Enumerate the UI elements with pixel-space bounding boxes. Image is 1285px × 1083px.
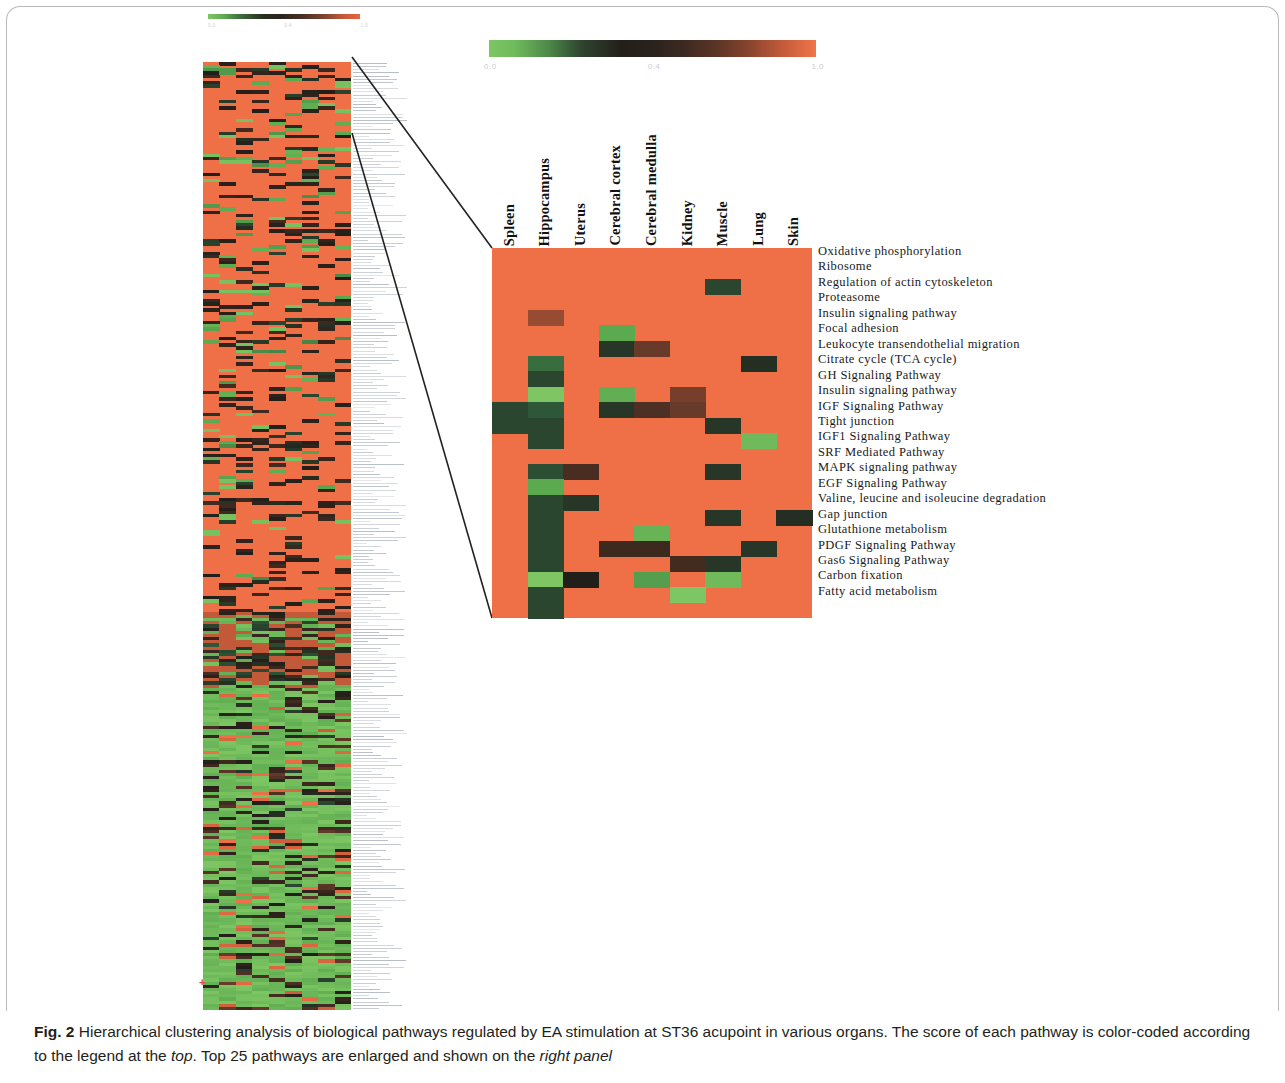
overview-heatmap-cell [285, 318, 302, 322]
overview-heatmap-cell [219, 305, 236, 309]
overview-heatmap-cell [318, 192, 335, 196]
overview-micro-label [353, 338, 381, 339]
overview-heatmap-cell [203, 75, 220, 79]
overview-micro-label [353, 866, 382, 867]
overview-heatmap-cell [219, 195, 236, 199]
overview-micro-label [353, 850, 386, 851]
overview-heatmap-cell [219, 435, 236, 439]
overview-micro-label [353, 148, 372, 149]
overview-heatmap-cell [252, 71, 269, 75]
overview-micro-label [353, 856, 381, 857]
overview-heatmap-cell [335, 90, 351, 94]
overview-heatmap-cell [302, 466, 319, 470]
overview-heatmap-cell [219, 290, 236, 294]
overview-micro-label [353, 742, 397, 743]
overview-heatmap-cell [236, 539, 253, 543]
overview-micro-label [353, 872, 396, 873]
overview-heatmap-cell [285, 233, 302, 237]
overview-micro-label [353, 442, 400, 443]
overview-heatmap-cell [203, 448, 220, 452]
overview-heatmap-cell [302, 599, 319, 603]
overview-micro-label [353, 363, 392, 364]
overview-row-label-column [351, 62, 411, 1010]
overview-heatmap-cell [318, 68, 335, 72]
row-label: Focal adhesion [818, 322, 899, 335]
overview-heatmap-cell [203, 492, 220, 496]
heatmap-cell [528, 433, 564, 449]
overview-micro-label [353, 370, 377, 371]
overview-heatmap-cell [302, 378, 319, 382]
row-label: Proteasome [818, 291, 880, 304]
overview-heatmap-cell [335, 593, 351, 597]
overview-micro-label [353, 644, 400, 645]
overview-micro-label [353, 502, 375, 503]
overview-micro-label [353, 847, 371, 848]
overview-heatmap-cell [236, 463, 253, 467]
overview-heatmap-cell [302, 394, 319, 398]
overview-micro-label [353, 790, 390, 791]
overview-heatmap-cell [285, 375, 302, 379]
overview-heatmap-cell [302, 571, 319, 575]
overview-heatmap-cell [269, 457, 286, 461]
legend-tick-min: 0.0 [484, 62, 497, 71]
overview-micro-label [353, 452, 373, 453]
overview-micro-label [353, 515, 405, 516]
overview-micro-label [353, 167, 399, 168]
overview-micro-label [353, 528, 379, 529]
row-label: MAPK signaling pathway [818, 461, 957, 474]
overview-heatmap-cell [302, 239, 319, 243]
overview-micro-label [353, 404, 391, 405]
legend-colorbar-ticks: 0.0 0.4 1.0 [484, 62, 824, 71]
overview-heatmap-cell [302, 350, 319, 354]
overview-micro-label [353, 123, 393, 124]
heatmap-cell [528, 356, 564, 372]
overview-heatmap-cell [302, 419, 319, 423]
overview-micro-label [353, 540, 398, 541]
heatmap-cell [599, 341, 635, 357]
overview-micro-label [353, 243, 403, 244]
overview-heatmap-cell [285, 223, 302, 227]
heatmap-cell [634, 541, 670, 557]
overview-micro-label [353, 537, 406, 538]
overview-micro-label [353, 761, 388, 762]
overview-micro-label [353, 600, 381, 601]
overview-heatmap-cell [269, 482, 286, 486]
overview-heatmap-cell [252, 261, 269, 265]
overview-micro-label [353, 423, 384, 424]
overview-micro-label [353, 945, 394, 946]
overview-heatmap-cell [219, 444, 236, 448]
overview-heatmap-cell [318, 160, 335, 164]
overview-micro-label [353, 98, 407, 99]
overview-heatmap-cell [219, 403, 236, 407]
overview-heatmap-cell [236, 141, 253, 145]
heatmap-cell [599, 387, 635, 403]
overview-heatmap-cell [203, 460, 220, 464]
overview-micro-label [353, 458, 376, 459]
overview-heatmap-cell [335, 84, 351, 88]
overview-micro-label [353, 196, 395, 197]
overview-micro-label [353, 553, 386, 554]
overview-heatmap-cell [236, 1007, 253, 1010]
overview-micro-label [353, 373, 381, 374]
overview-heatmap-cell [219, 587, 236, 591]
overview-micro-label [353, 376, 406, 377]
overview-micro-label [353, 885, 396, 886]
overview-heatmap-cell [269, 252, 286, 256]
overview-micro-label [353, 967, 404, 968]
overview-micro-label [353, 471, 374, 472]
overview-micro-label [353, 821, 401, 822]
overview-micro-label [353, 360, 399, 361]
overview-micro-label [353, 565, 375, 566]
overview-heatmap-cell [269, 321, 286, 325]
overview-heatmap-cell [269, 1007, 286, 1010]
overview-micro-label [353, 825, 401, 826]
overview-heatmap-cell [285, 432, 302, 436]
overview-heatmap-cell [302, 147, 319, 151]
overview-heatmap-cell [269, 331, 286, 335]
overview-micro-label [353, 272, 383, 273]
row-label: Insulin signaling pathway [818, 307, 957, 320]
overview-heatmap-cell [302, 460, 319, 464]
overview-micro-label [353, 904, 376, 905]
overview-micro-label [353, 385, 388, 386]
overview-heatmap-cell [219, 71, 236, 75]
